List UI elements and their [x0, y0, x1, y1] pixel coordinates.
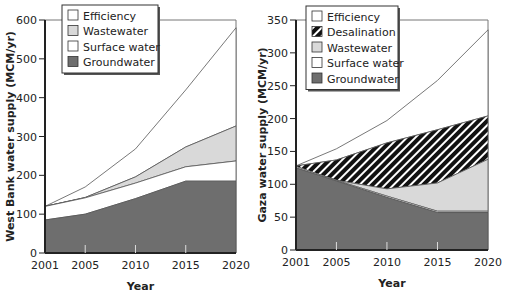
- x-tick-label: 2001: [282, 256, 310, 269]
- y-tick-label: 300: [267, 47, 288, 60]
- x-tick-label: 2020: [474, 256, 502, 269]
- y-tick-label: 350: [267, 14, 288, 27]
- y-axis-label: Gaza water supply (MCM/yr): [256, 47, 269, 222]
- x-axis-label: Year: [126, 280, 155, 293]
- legend-label: Groundwater: [327, 73, 399, 86]
- y-tick-label: 300: [16, 131, 37, 144]
- y-axis-label: West Bank water supply (MCM/yr): [4, 31, 17, 242]
- y-tick-label: 600: [16, 14, 37, 27]
- y-tick-label: 250: [267, 80, 288, 93]
- legend-swatch: [312, 11, 322, 21]
- legend-swatch: [312, 42, 322, 52]
- legend-label: Surface water: [83, 41, 160, 54]
- y-tick-label: 100: [16, 208, 37, 221]
- legend-swatch: [68, 41, 78, 51]
- x-tick-label: 2020: [222, 259, 250, 272]
- x-tick-label: 2010: [373, 256, 401, 269]
- legend-swatch: [312, 27, 322, 37]
- legend-swatch: [312, 58, 322, 68]
- legend-swatch: [68, 57, 78, 67]
- legend-swatch: [312, 73, 322, 83]
- y-tick-label: 50: [274, 211, 288, 224]
- charts-canvas: 010020030040050060020012005201020152020Y…: [0, 0, 507, 296]
- legend-label: Desalination: [327, 26, 396, 39]
- y-tick-label: 200: [267, 113, 288, 126]
- legend-label: Wastewater: [83, 25, 149, 38]
- x-tick-label: 2015: [172, 259, 200, 272]
- x-tick-label: 2005: [71, 259, 99, 272]
- x-tick-label: 2005: [322, 256, 350, 269]
- legend-label: Efficiency: [327, 11, 380, 24]
- y-tick-label: 500: [16, 53, 37, 66]
- legend-label: Surface water: [327, 57, 404, 70]
- legend-label: Efficiency: [83, 10, 136, 23]
- x-tick-label: 2010: [121, 259, 149, 272]
- y-tick-label: 400: [16, 92, 37, 105]
- gaza-chart: 0501001502002503003502001200520102015202…: [256, 6, 502, 290]
- legend-label: Groundwater: [83, 56, 155, 69]
- legend-swatch: [68, 26, 78, 36]
- x-tick-label: 2015: [423, 256, 451, 269]
- legend-swatch: [68, 10, 78, 20]
- west-bank-chart: 010020030040050060020012005201020152020Y…: [4, 5, 250, 293]
- y-tick-label: 100: [267, 178, 288, 191]
- x-tick-label: 2001: [31, 259, 59, 272]
- x-axis-label: Year: [377, 277, 406, 290]
- y-tick-label: 150: [267, 145, 288, 158]
- legend-label: Wastewater: [327, 42, 393, 55]
- y-tick-label: 200: [16, 169, 37, 182]
